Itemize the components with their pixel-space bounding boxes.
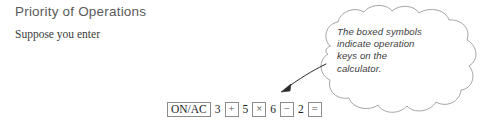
key-minus[interactable]: − <box>280 102 294 117</box>
curved-arrow-icon <box>274 62 334 102</box>
operand-5: 5 <box>239 102 253 117</box>
callout-line-2: indicate operation <box>337 38 449 50</box>
key-plus[interactable]: + <box>225 102 239 117</box>
callout-line-1: The boxed symbols <box>337 26 449 38</box>
pointer-arrow <box>274 62 334 102</box>
operand-2: 2 <box>294 102 308 117</box>
key-sequence: ON/AC 3 + 5 × 6 − 2 = <box>167 102 322 117</box>
operand-6: 6 <box>266 102 280 117</box>
key-equals[interactable]: = <box>308 102 322 117</box>
key-on-ac[interactable]: ON/AC <box>167 102 211 117</box>
callout-line-3: keys on the <box>337 50 449 62</box>
worksheet-figure: Priority of Operations Suppose you enter… <box>0 0 481 126</box>
callout-text: The boxed symbols indicate operation key… <box>337 26 449 75</box>
key-multiply[interactable]: × <box>252 102 266 117</box>
page-title: Priority of Operations <box>15 4 146 19</box>
intro-text: Suppose you enter <box>15 28 100 40</box>
operand-3: 3 <box>211 102 225 117</box>
callout-line-4: calculator. <box>337 63 449 75</box>
